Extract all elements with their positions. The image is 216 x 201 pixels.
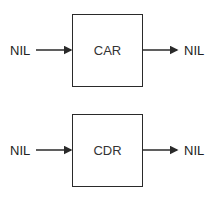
cdr-output-label: NIL (184, 144, 204, 157)
car-block-label: CAR (94, 43, 121, 58)
car-block: CAR (72, 14, 143, 87)
car-output-label: NIL (184, 44, 204, 57)
cdr-block: CDR (72, 114, 143, 187)
car-input-label: NIL (10, 44, 30, 57)
cdr-block-label: CDR (93, 143, 121, 158)
cdr-input-label: NIL (10, 144, 30, 157)
